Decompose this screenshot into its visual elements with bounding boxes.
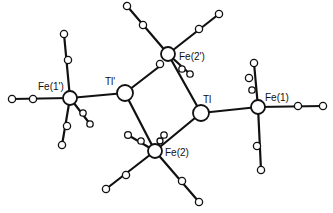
atom-tlp — [117, 85, 133, 101]
fe2p-carbonyls — [123, 2, 222, 77]
label-tlp: Tl' — [105, 76, 115, 87]
molecular-structure-diagram: Fe(1') Tl' Fe(2') Tl Fe(1) Fe(2) — [0, 0, 333, 213]
label-fe1p: Fe(1') — [38, 81, 64, 92]
fe1-carbonyls — [245, 59, 326, 173]
atom-fe2 — [148, 144, 162, 158]
label-tl: Tl — [203, 94, 211, 105]
ortep-drawing: Fe(1') Tl' Fe(2') Tl Fe(1) Fe(2) — [0, 0, 333, 213]
label-fe2p: Fe(2') — [179, 51, 205, 62]
atom-tl — [193, 105, 209, 121]
fe2-carbonyls — [102, 132, 202, 206]
label-fe1: Fe(1) — [265, 92, 289, 103]
atom-fe1p — [63, 91, 77, 105]
label-fe2: Fe(2) — [165, 147, 189, 158]
atom-fe2p — [161, 47, 175, 61]
atom-fe1 — [251, 100, 265, 114]
